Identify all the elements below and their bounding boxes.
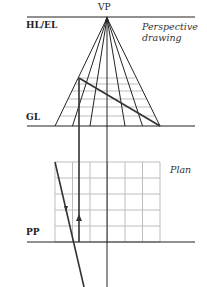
picture-plane-label: PP [26,227,40,237]
reference-lines [27,17,195,287]
plan-label: Plan [170,164,191,175]
arrow-down-icon [64,206,68,212]
ground-label: GL [26,112,40,122]
arrow-up-icon [76,214,82,221]
horizon-label: HL/EL [26,20,57,30]
perspective-label-line1: Perspective [142,21,198,32]
vp-label: VP [98,2,111,12]
perspective-diagram: VP HL/EL Perspective drawing GL Plan PP [0,0,207,287]
diagram-canvas [0,0,207,287]
perspective-label-line2: drawing [142,32,182,43]
